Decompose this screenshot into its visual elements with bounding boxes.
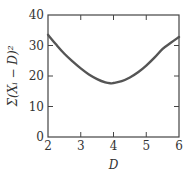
x-tick-label: 6 (175, 139, 183, 153)
x-tick-label: 4 (110, 139, 118, 153)
x-tick-label: 2 (44, 139, 52, 153)
chart: 23456010203040 D Σ(Xᵢ − D)² (0, 0, 192, 175)
tick-labels: 23456010203040 (29, 8, 183, 153)
y-tick-label: 20 (29, 69, 44, 83)
plot-frame (48, 15, 179, 137)
y-tick-label: 40 (29, 8, 44, 22)
x-tick-label: 5 (142, 139, 150, 153)
axis-ticks (48, 15, 179, 137)
x-axis-label: D (108, 158, 119, 172)
data-curve (48, 35, 179, 84)
y-axis-label: Σ(Xᵢ − D)² (6, 45, 20, 107)
y-tick-label: 0 (36, 130, 44, 144)
x-tick-label: 3 (77, 139, 85, 153)
y-tick-label: 30 (29, 39, 44, 53)
y-tick-label: 10 (29, 100, 44, 114)
